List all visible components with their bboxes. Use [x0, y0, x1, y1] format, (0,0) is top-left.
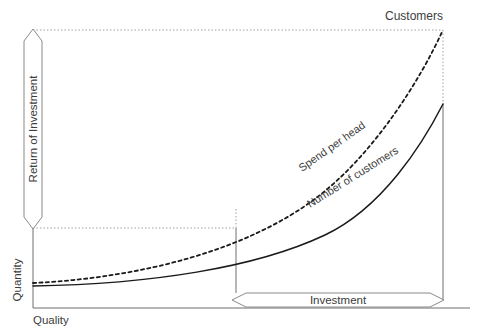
investment-label: Investment [310, 294, 367, 306]
y-axis-label: Quantity [11, 258, 23, 301]
business-growth-diagram: Customers Return of Investment Investmen… [0, 0, 488, 336]
spend-per-head-label: Spend per head [296, 119, 367, 174]
diagram-canvas: Customers Return of Investment Investmen… [0, 0, 488, 336]
guide-lines [33, 30, 443, 229]
diagram-labels: Customers Return of Investment Investmen… [11, 9, 443, 326]
return-of-investment-label: Return of Investment [27, 75, 39, 183]
x-axis-label: Quality [33, 314, 69, 326]
customers-label: Customers [385, 9, 443, 23]
